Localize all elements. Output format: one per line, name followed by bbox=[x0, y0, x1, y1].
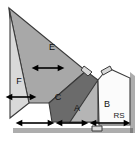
right-shadow-band bbox=[130, 72, 135, 133]
diagram-root: E F C A B RS bbox=[0, 0, 138, 142]
regions-group bbox=[9, 8, 130, 125]
tab-nub-bottom bbox=[92, 126, 102, 131]
bottom-shadow-band bbox=[13, 128, 133, 133]
region-B-shape[interactable] bbox=[98, 68, 130, 125]
polygon-partition-figure: E F C A B RS bbox=[0, 0, 138, 142]
